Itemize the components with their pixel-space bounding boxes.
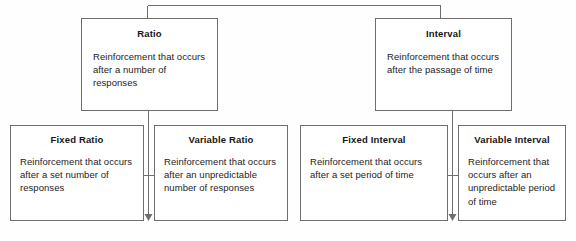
node-variable-ratio-body: Reinforcement that occurs after an unpre… [164,155,287,195]
node-fixed-ratio-title: Fixed Ratio [11,134,143,146]
node-fixed-ratio[interactable]: Fixed Ratio Reinforcement that occurs af… [10,125,144,221]
node-interval[interactable]: Interval Reinforcement that occurs after… [375,18,512,111]
node-fixed-interval[interactable]: Fixed Interval Reinforcement that occurs… [300,125,448,221]
node-variable-interval[interactable]: Variable Interval Reinforcement that occ… [458,125,566,221]
node-fixed-interval-body: Reinforcement that occurs after a set pe… [310,155,447,181]
node-fixed-ratio-body: Reinforcement that occurs after a set nu… [20,155,143,195]
node-interval-body: Reinforcement that occurs after the pass… [387,50,511,76]
node-variable-ratio-title: Variable Ratio [155,134,287,146]
node-fixed-interval-title: Fixed Interval [301,134,447,146]
reinforcement-schedules-diagram: Ratio Reinforcement that occurs after a … [0,0,576,241]
node-variable-ratio[interactable]: Variable Ratio Reinforcement that occurs… [154,125,288,221]
node-interval-title: Interval [376,28,511,40]
ratio-arrowhead [145,214,153,221]
node-ratio-body: Reinforcement that occurs after a number… [93,50,217,90]
interval-arrowhead [449,214,457,221]
node-ratio[interactable]: Ratio Reinforcement that occurs after a … [81,18,218,111]
node-variable-interval-title: Variable Interval [459,134,565,146]
node-variable-interval-body: Reinforcement that occurs after an unpre… [468,155,565,208]
node-ratio-title: Ratio [82,28,217,40]
